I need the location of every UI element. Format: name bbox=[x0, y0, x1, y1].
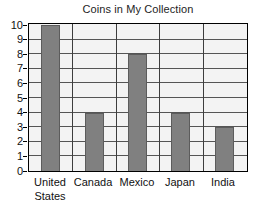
y-tick-mark bbox=[23, 141, 27, 142]
y-axis: 012345678910 bbox=[0, 23, 26, 172]
bar-india bbox=[215, 127, 234, 171]
bar-united-states bbox=[41, 25, 60, 171]
y-tick-mark bbox=[23, 39, 27, 40]
y-tick-mark bbox=[23, 171, 27, 172]
y-tick-mark bbox=[23, 127, 27, 128]
bar-chart: Coins in My Collection 012345678910 Unit… bbox=[0, 0, 263, 218]
y-tick-mark bbox=[23, 98, 27, 99]
bar-canada bbox=[85, 113, 104, 171]
y-tick-mark bbox=[23, 112, 27, 113]
y-tick-mark bbox=[23, 68, 27, 69]
y-tick-mark bbox=[23, 54, 27, 55]
x-axis: United StatesCanadaMexicoJapanIndia bbox=[28, 175, 248, 217]
y-tick-mark bbox=[23, 156, 27, 157]
y-tick-mark bbox=[23, 83, 27, 84]
y-tick-label: 10 bbox=[11, 19, 23, 30]
plot-area bbox=[28, 23, 248, 172]
x-tick-label: India bbox=[196, 175, 250, 189]
y-tick-mark bbox=[23, 25, 27, 26]
bar-mexico bbox=[128, 54, 147, 171]
bar-japan bbox=[171, 113, 190, 171]
bar-series bbox=[29, 24, 247, 171]
chart-title: Coins in My Collection bbox=[28, 3, 248, 16]
